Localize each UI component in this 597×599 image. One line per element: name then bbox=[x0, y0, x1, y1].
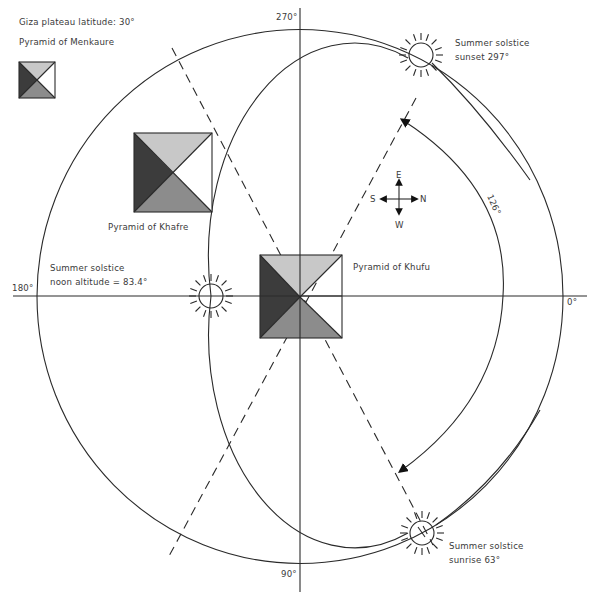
degree-90-label: 90° bbox=[281, 569, 297, 579]
rose-label-north: N bbox=[420, 194, 427, 204]
noon-label-line2: noon altitude = 83.4° bbox=[50, 277, 147, 287]
pyramid-menkaure bbox=[19, 62, 55, 98]
pyramid-khufu bbox=[260, 255, 342, 338]
pyramid-khafre bbox=[134, 133, 212, 212]
degree-180-label: 180° bbox=[12, 283, 34, 293]
degree-270-label: 270° bbox=[276, 12, 298, 22]
arc-angle-label: 126° bbox=[485, 193, 503, 217]
direction-rose-icon: E W S N bbox=[370, 170, 427, 230]
rose-label-south: S bbox=[370, 194, 376, 204]
menkaure-label: Pyramid of Menkaure bbox=[19, 37, 114, 47]
rose-label-west: W bbox=[395, 220, 404, 230]
sunset-label-line1: Summer solstice bbox=[455, 38, 530, 48]
sunset-sun-icon bbox=[399, 33, 443, 77]
rose-label-east: E bbox=[396, 170, 402, 180]
sunrise-sun-icon bbox=[400, 511, 444, 555]
latitude-title: Giza plateau latitude: 30° bbox=[19, 17, 135, 27]
sun-path-arc-right-lower bbox=[436, 410, 540, 525]
sun-path-arc-right-upper bbox=[432, 63, 530, 180]
sunrise-label-line1: Summer solstice bbox=[449, 541, 524, 551]
degree-0-label: 0° bbox=[567, 297, 577, 307]
sunrise-label-line2: sunrise 63° bbox=[449, 555, 500, 565]
giza-solstice-diagram: E W S N Giza plateau latitude: 30° Pyram… bbox=[0, 0, 597, 599]
khufu-label: Pyramid of Khufu bbox=[353, 262, 430, 272]
khafre-label: Pyramid of Khafre bbox=[108, 222, 188, 232]
sunset-label-line2: sunset 297° bbox=[455, 52, 509, 62]
noon-label-line1: Summer solstice bbox=[50, 263, 125, 273]
